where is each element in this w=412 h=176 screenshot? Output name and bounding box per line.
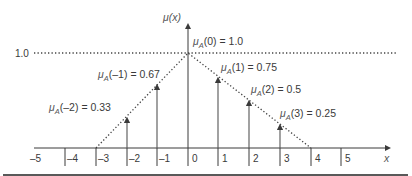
tick-label: –4 [67,153,79,164]
tick-label: 3 [284,153,290,164]
tick-label: 0 [192,153,198,164]
tick-label: –5 [30,153,42,164]
reference-line-label: 1.0 [15,48,29,59]
annotation-mu-2: μA(2) = 0.5 [250,83,301,98]
tick-label: –3 [98,153,110,164]
tick-label: –1 [159,153,171,164]
annotation-mu-0: μA(0) = 1.0 [192,35,243,50]
membership-function-chart: 1.0 x μ(x) –5 –4 –3 –2 –1 0 1 2 3 4 5 [0,0,412,176]
y-axis-title: μ(x) [162,11,181,23]
tick-label: 1 [222,153,228,164]
annotation-mu-neg1: μA(–1) = 0.67 [97,68,160,83]
tick-label: –2 [129,153,141,164]
tick-label: 5 [345,153,351,164]
x-axis-title: x [383,152,390,164]
tick-label: 4 [315,153,321,164]
annotation-mu-3: μA(3) = 0.25 [279,107,336,122]
annotation-mu-1: μA(1) = 0.75 [220,61,277,76]
tick-label: 2 [253,153,259,164]
x-tick-labels: –5 –4 –3 –2 –1 0 1 2 3 4 5 [30,153,351,164]
annotation-mu-neg2: μA(–2) = 0.33 [48,101,111,116]
